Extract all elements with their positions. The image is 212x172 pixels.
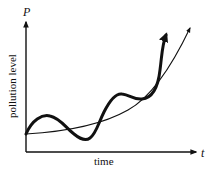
x-axis-symbol: t	[201, 147, 204, 159]
y-axis-symbol: P	[23, 6, 30, 18]
y-axis-label: pollution level	[7, 54, 18, 118]
x-axis-label: time	[94, 156, 114, 167]
chart-canvas	[0, 0, 212, 172]
oscillating-curve	[26, 35, 166, 139]
trend-curve	[26, 28, 190, 134]
